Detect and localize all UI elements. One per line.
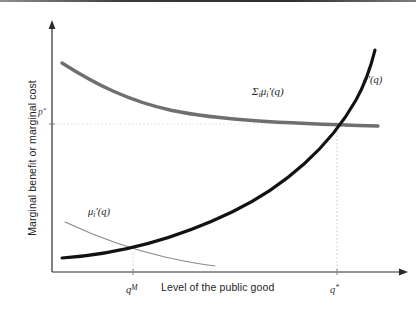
mu-prime-arg: ′(q) [268, 85, 283, 97]
individual-marginal-benefit-label: μi′(q) [88, 206, 110, 219]
q-market-label: qM [126, 283, 138, 295]
x-axis-arrowhead [399, 269, 408, 276]
q-star-label: q* [330, 283, 339, 295]
q-star-glyph: * [335, 283, 339, 292]
y-axis-label: Marginal benefit or marginal cost [26, 63, 38, 253]
mu-individual-prime-arg: ′(q) [95, 206, 110, 217]
p-star-glyph: * [43, 106, 46, 113]
marginal-cost-curve [62, 50, 375, 258]
public-goods-marginal-benefit-cost-chart: Marginal benefit or marginal cost Level … [0, 0, 416, 312]
sum-marginal-benefit-label: Σiμi′(q) [252, 85, 284, 99]
x-axis-label: Level of the public good [161, 281, 274, 293]
y-axis-arrowhead [49, 20, 56, 29]
chart-plot-area [0, 0, 416, 312]
price-star-label: p* [38, 106, 46, 117]
q-market-superscript: M [131, 283, 137, 292]
sum-marginal-benefit-curve [62, 63, 378, 126]
marginal-cost-label: c′(q) [363, 74, 382, 85]
